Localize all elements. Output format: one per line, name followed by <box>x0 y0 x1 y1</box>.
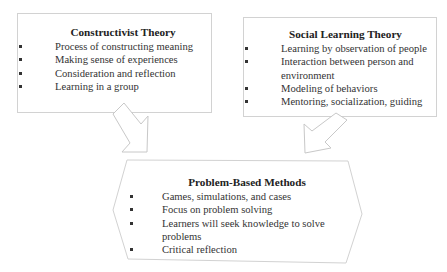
list-item: Games, simulations, and cases <box>128 190 348 203</box>
list-item: Consideration and reflection <box>17 67 211 80</box>
list-item: Mentoring, socialization, guiding <box>243 95 436 108</box>
social-learning-theory-box: Social Learning Theory Learning by obser… <box>243 28 436 108</box>
box-title: Social Learning Theory <box>243 28 436 41</box>
list-item: Learners will seek knowledge to solve pr… <box>128 217 348 244</box>
list-item: Learning in a group <box>17 80 211 93</box>
arrow-down-left-icon <box>304 113 347 153</box>
list-item: Interaction between person and environme… <box>243 55 436 82</box>
list-item: Learning by observation of people <box>243 42 436 55</box>
bullet-list: Learning by observation of people Intera… <box>243 42 436 108</box>
problem-based-methods-box: Problem-Based Methods Games, simulations… <box>128 176 348 256</box>
list-item: Focus on problem solving <box>128 203 348 216</box>
box-title: Problem-Based Methods <box>128 176 348 189</box>
bullet-list: Games, simulations, and cases Focus on p… <box>128 190 348 256</box>
list-item: Critical reflection <box>128 243 348 256</box>
bullet-list: Process of constructing meaning Making s… <box>17 40 211 93</box>
list-item: Process of constructing meaning <box>17 40 211 53</box>
list-item: Modeling of behaviors <box>243 82 436 95</box>
box-title: Constructivist Theory <box>17 26 211 39</box>
constructivist-theory-box: Constructivist Theory Process of constru… <box>17 26 211 93</box>
list-item: Making sense of experiences <box>17 53 211 66</box>
